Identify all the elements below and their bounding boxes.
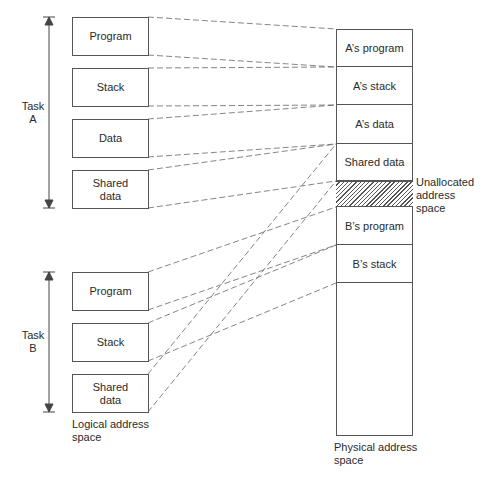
- logical-address-space-caption: Logical address space: [72, 418, 149, 444]
- phys-shared-data: Shared data: [336, 144, 413, 181]
- physical-address-space-caption: Physical address space: [334, 441, 417, 467]
- phys-a-program: A’s program: [336, 29, 413, 67]
- task-b-program-segment: Program: [72, 272, 149, 311]
- task-a-data-segment: Data: [72, 119, 149, 158]
- task-a-stack-segment: Stack: [72, 68, 149, 107]
- phys-b-program: B’s program: [336, 207, 413, 245]
- task-b-stack-segment: Stack: [72, 323, 149, 362]
- task-a-label: Task A: [18, 100, 48, 126]
- phys-a-stack: A’s stack: [336, 67, 413, 105]
- task-b-shared-data-segment: Shared data: [72, 374, 149, 413]
- phys-b-stack: B’s stack: [336, 245, 413, 283]
- unallocated-label: Unallocated address space: [416, 176, 474, 215]
- phys-a-data: A’s data: [336, 105, 413, 144]
- task-b-label: Task B: [18, 329, 48, 355]
- phys-unallocated: [336, 181, 413, 207]
- task-a-program-segment: Program: [72, 17, 149, 56]
- task-a-shared-data-segment: Shared data: [72, 170, 149, 209]
